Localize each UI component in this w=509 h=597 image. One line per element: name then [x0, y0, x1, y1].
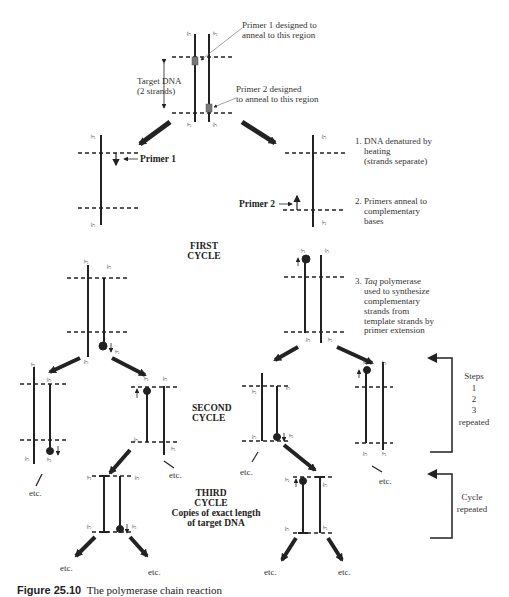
step1-text: 1. DNA denatured by — [355, 136, 432, 146]
third-cycle-label: THIRD — [195, 488, 226, 498]
step1-text: (strands separate) — [364, 156, 427, 166]
second-cycle-product-3 — [242, 373, 288, 462]
five-prime-label: 5' — [284, 386, 291, 390]
steps-repeated-label: 2 — [472, 394, 477, 404]
first-cycle-label: FIRST — [190, 241, 219, 251]
three-prime-label: 3' — [283, 478, 290, 482]
second-cycle-label: SECOND — [192, 403, 232, 413]
five-prime-label: 5' — [133, 476, 140, 480]
three-prime-label: 3' — [299, 249, 306, 253]
five-prime-label: 5' — [161, 377, 168, 381]
figure-title: The polymerase chain reaction — [87, 584, 222, 596]
primer1-label: Primer 1 — [140, 154, 176, 164]
five-prime-label: 5' — [283, 527, 290, 531]
primer2-note: to anneal to this region — [236, 94, 319, 104]
primer2-label: Primer 2 — [239, 199, 275, 209]
three-prime-label: 3' — [82, 260, 89, 264]
third-cycle-product-left — [92, 476, 132, 533]
step3-text: complementary — [364, 296, 420, 306]
three-prime-label: 3' — [250, 390, 257, 394]
etc-label: etc. — [29, 488, 42, 498]
etc-label: etc. — [169, 470, 182, 480]
primer2-region — [206, 104, 212, 112]
primer2-note: Primer 2 designed — [236, 84, 302, 94]
flow-arrows — [76, 537, 342, 560]
five-prime-label: 5' — [323, 249, 330, 253]
flow-arrows — [110, 445, 315, 473]
target-dna-label: Target DNA — [137, 76, 182, 86]
steps-repeated-label: repeated — [459, 417, 490, 427]
five-prime-label: 5' — [250, 435, 257, 439]
etc-label: etc. — [148, 567, 161, 577]
step2-text: bases — [364, 216, 384, 226]
figure-number: Figure 25.10 — [17, 584, 81, 596]
five-prime-label: 5' — [23, 457, 30, 461]
five-prime-label: 5' — [320, 135, 327, 139]
cycle-repeated-label: Cycle — [462, 492, 483, 502]
steps-repeated-bracket — [427, 353, 452, 452]
five-prime-label: 5' — [211, 123, 218, 127]
five-prime-label: 5' — [82, 360, 89, 364]
target-dna-label: (2 strands) — [137, 86, 175, 96]
step3-text: strands from — [364, 306, 409, 316]
step2-text: 2. Primers anneal to — [355, 196, 427, 206]
five-prime-label: 5' — [185, 32, 192, 36]
etc-label: etc. — [60, 563, 73, 573]
steps-repeated-label: 3 — [472, 405, 477, 415]
step1-text: heating — [364, 146, 391, 156]
three-prime-label: 3' — [130, 525, 137, 529]
flow-arrows — [140, 122, 275, 144]
three-prime-label: 3' — [321, 526, 328, 530]
three-prime-label: 3' — [45, 458, 52, 462]
five-prime-label: 5' — [304, 338, 311, 342]
steps-repeated-label: 1 — [472, 383, 477, 393]
three-prime-label: 3' — [211, 32, 218, 36]
etc-label: etc. — [264, 567, 277, 577]
third-cycle-subtitle: Copies of exact length — [172, 508, 262, 518]
first-cycle-label: CYCLE — [187, 251, 220, 261]
three-prime-label: 3' — [287, 434, 294, 438]
primer1-note: Primer 1 designed to — [242, 20, 317, 30]
step3-text: primer extension — [364, 325, 425, 335]
primer1-note: anneal to this region — [242, 30, 316, 40]
second-cycle-label: CYCLE — [192, 413, 225, 423]
three-prime-label: 3' — [326, 338, 333, 342]
etc-label: etc. — [240, 467, 253, 477]
three-prime-label: 3' — [185, 123, 192, 127]
pcr-diagram: 5' 3' 3' 5' Primer 1 designed to anneal … — [0, 0, 509, 597]
three-prime-label: 3' — [142, 377, 149, 381]
etc-label: etc. — [338, 567, 351, 577]
step2-text: complementary — [364, 206, 420, 216]
three-prime-label: 3' — [85, 476, 92, 480]
denatured-strand-right — [279, 135, 345, 227]
three-prime-label: 3' — [380, 452, 387, 456]
first-cycle-product-right — [284, 255, 344, 343]
step3-text: used to synthesize — [364, 286, 430, 296]
primer1-region — [192, 57, 198, 65]
steps-repeated-label: Steps — [464, 371, 484, 381]
step3-text: 3. Taq polymerase — [355, 276, 421, 286]
third-cycle-subtitle: of target DNA — [187, 518, 245, 528]
second-cycle-product-1 — [20, 367, 66, 486]
cycle-repeated-bracket — [427, 469, 452, 538]
three-prime-label: 3' — [89, 135, 96, 139]
three-prime-label: 3' — [320, 221, 327, 225]
third-cycle-label: CYCLE — [194, 498, 227, 508]
five-prime-label: 5' — [45, 378, 52, 382]
etc-label: etc. — [379, 476, 392, 486]
first-cycle-product-left — [67, 265, 127, 357]
five-prime-label: 5' — [321, 483, 328, 487]
five-prime-label: 5' — [105, 265, 112, 269]
five-prime-label: 5' — [85, 525, 92, 529]
three-prime-label: 3' — [113, 350, 120, 354]
five-prime-label: 5' — [380, 361, 387, 365]
three-prime-label: 3' — [29, 363, 36, 367]
figure-caption: Figure 25.10 The polymerase chain reacti… — [17, 584, 222, 596]
five-prime-label: 5' — [361, 452, 368, 456]
cycle-repeated-label: repeated — [457, 504, 488, 514]
second-cycle-product-2 — [131, 386, 178, 468]
three-prime-label: 3' — [361, 361, 368, 365]
flow-arrows — [50, 347, 372, 375]
five-prime-label: 5' — [89, 223, 96, 227]
third-cycle-label-group: THIRD CYCLE Copies of exact length of ta… — [172, 488, 262, 528]
